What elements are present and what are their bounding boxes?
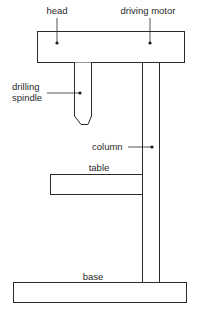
drilling-machine-diagram: head driving motor drilling spindle colu… bbox=[0, 0, 200, 316]
head-shape bbox=[38, 32, 185, 63]
drilling-spindle-marker-dot bbox=[78, 91, 81, 94]
drilling-spindle-shape bbox=[75, 63, 92, 125]
column-label: column bbox=[92, 141, 123, 152]
table-shape bbox=[51, 175, 143, 195]
drilling-spindle-label-line1: drilling bbox=[12, 81, 39, 92]
driving-motor-label: driving motor bbox=[121, 5, 176, 16]
driving-motor-marker-dot bbox=[148, 41, 151, 44]
column-shape bbox=[143, 63, 160, 283]
diagram-svg: head driving motor drilling spindle colu… bbox=[0, 0, 200, 316]
drilling-spindle-label-line2: spindle bbox=[12, 92, 42, 103]
table-label: table bbox=[89, 162, 110, 173]
base-shape bbox=[14, 283, 187, 303]
base-label: base bbox=[83, 271, 104, 282]
head-marker-dot bbox=[55, 41, 58, 44]
head-label: head bbox=[46, 5, 67, 16]
column-marker-dot bbox=[150, 145, 153, 148]
